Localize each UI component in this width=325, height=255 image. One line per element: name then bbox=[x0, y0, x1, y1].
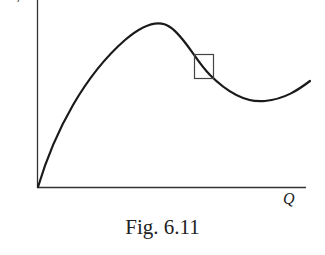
curve-line bbox=[38, 23, 310, 187]
figure-caption: Fig. 6.11 bbox=[0, 215, 325, 240]
x-axis-label: Q bbox=[283, 190, 295, 208]
y-axis-label-fragment: / bbox=[18, 0, 22, 6]
